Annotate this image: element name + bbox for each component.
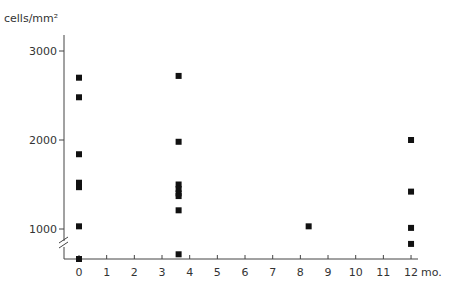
x-tick-label: 2	[131, 266, 138, 279]
y-tick-label: 3000	[29, 45, 57, 58]
x-tick-label: 0	[76, 266, 83, 279]
data-point	[408, 225, 414, 231]
x-tick-label: 5	[214, 266, 221, 279]
data-point	[76, 151, 82, 157]
data-point	[76, 184, 82, 190]
x-tick-label: 1	[103, 266, 110, 279]
scatter-chart: 1000200030000123456789101112 cells/mm² m…	[0, 0, 450, 291]
data-point	[76, 223, 82, 229]
x-tick-label: 11	[376, 266, 390, 279]
x-tick-label: 6	[242, 266, 249, 279]
data-point	[408, 241, 414, 247]
y-tick-label: 2000	[29, 134, 57, 147]
data-point	[76, 94, 82, 100]
x-tick-label: 7	[269, 266, 276, 279]
x-axis-label: mo.	[421, 266, 442, 279]
x-tick-label: 9	[325, 266, 332, 279]
data-point	[176, 193, 182, 199]
data-point	[408, 189, 414, 195]
data-point	[176, 139, 182, 145]
data-point	[408, 137, 414, 143]
x-tick-label: 3	[159, 266, 166, 279]
data-point	[176, 251, 182, 257]
data-point	[76, 256, 82, 262]
x-tick-label: 4	[186, 266, 193, 279]
axes	[59, 35, 418, 259]
ticks: 1000200030000123456789101112	[29, 45, 418, 279]
data-point	[176, 73, 182, 79]
y-tick-label: 1000	[29, 223, 57, 236]
data-point	[176, 207, 182, 213]
y-axis-label: cells/mm²	[4, 12, 58, 25]
x-tick-label: 10	[349, 266, 363, 279]
data-point	[306, 223, 312, 229]
x-tick-label: 8	[297, 266, 304, 279]
x-tick-label: 12	[404, 266, 418, 279]
data-point	[76, 75, 82, 81]
data-points	[76, 73, 414, 262]
